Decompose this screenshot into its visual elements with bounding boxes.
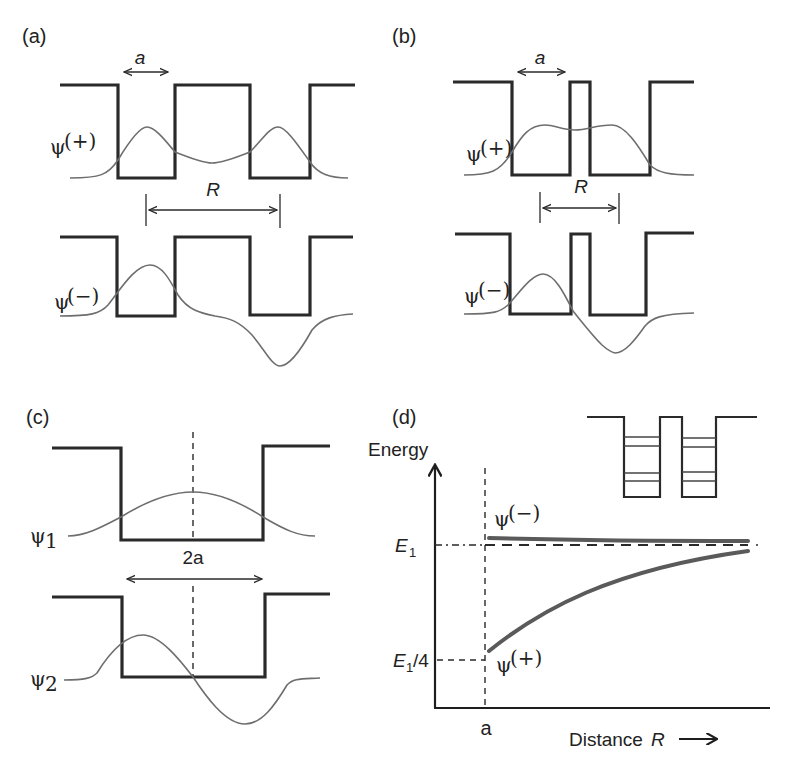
psi-minus-label: ψ (−) bbox=[464, 278, 510, 308]
panel-d: (d) Energy a E 1 E bbox=[368, 406, 770, 750]
svg-text:ψ: ψ bbox=[30, 524, 46, 548]
e1-guide-dot bbox=[756, 544, 758, 546]
panel-a-tag: (a) bbox=[22, 25, 46, 47]
svg-text:1: 1 bbox=[409, 545, 416, 560]
panel-b: (b) a ψ (+) R ψ (−) bbox=[392, 25, 694, 353]
panel-b-separation-label: R bbox=[574, 176, 588, 197]
potential-well-single-lower bbox=[52, 594, 330, 677]
svg-text:(+): (+) bbox=[480, 136, 512, 160]
potential-well-lower bbox=[455, 233, 694, 315]
wavefunction-plus bbox=[70, 127, 348, 178]
svg-text:Distance: Distance bbox=[569, 729, 643, 750]
psi-minus-label: ψ (−) bbox=[54, 284, 99, 314]
x-tick-a: a bbox=[480, 717, 492, 739]
svg-text:(+): (+) bbox=[510, 646, 542, 670]
panel-a: (a) a ψ (+) R ψ (−) bbox=[22, 25, 355, 366]
panel-b-tag: (b) bbox=[392, 25, 416, 47]
y-axis-label: Energy bbox=[368, 439, 429, 460]
curve-psi-plus bbox=[489, 551, 748, 651]
potential-well-lower bbox=[60, 237, 353, 316]
svg-text:(−): (−) bbox=[67, 284, 99, 308]
panel-a-separation-label: R bbox=[206, 179, 220, 200]
psi2-label: ψ 2 bbox=[30, 667, 58, 696]
psi-plus-label: ψ (+) bbox=[50, 129, 96, 159]
svg-text:(+): (+) bbox=[64, 129, 96, 153]
svg-text:/4: /4 bbox=[413, 650, 429, 671]
panel-c-width-label: 2a bbox=[182, 547, 204, 568]
svg-text:(−): (−) bbox=[508, 501, 540, 525]
svg-text:2: 2 bbox=[45, 672, 58, 696]
svg-text:(−): (−) bbox=[478, 278, 510, 302]
x-axis-label: Distance R bbox=[569, 729, 665, 750]
panel-d-tag: (d) bbox=[392, 406, 416, 428]
e1-quarter-label: E 1 /4 bbox=[393, 650, 429, 675]
inset-double-well bbox=[587, 417, 757, 497]
potential-well-single-upper bbox=[52, 446, 330, 540]
psi-plus-curve-label: ψ (+) bbox=[496, 646, 542, 677]
wavefunction-psi1 bbox=[68, 492, 315, 536]
e1-label: E 1 bbox=[395, 535, 416, 560]
double-well-figure: (a) a ψ (+) R ψ (−) (b) a ψ (+) bbox=[0, 0, 794, 768]
panel-b-width-label: a bbox=[535, 47, 546, 68]
wavefunction-psi2 bbox=[64, 635, 320, 724]
curve-psi-minus bbox=[489, 538, 748, 541]
psi1-label: ψ 1 bbox=[30, 524, 58, 553]
svg-text:ψ: ψ bbox=[30, 667, 46, 691]
svg-text:R: R bbox=[651, 729, 665, 750]
svg-text:E: E bbox=[395, 535, 408, 556]
panel-a-width-label: a bbox=[135, 47, 146, 68]
svg-text:1: 1 bbox=[45, 529, 58, 553]
panel-c: (c) ψ 1 2a ψ 2 bbox=[26, 406, 330, 724]
panel-c-tag: (c) bbox=[26, 406, 49, 428]
psi-minus-curve-label: ψ (−) bbox=[494, 501, 540, 531]
svg-text:E: E bbox=[393, 650, 406, 671]
potential-well-upper bbox=[453, 82, 694, 175]
